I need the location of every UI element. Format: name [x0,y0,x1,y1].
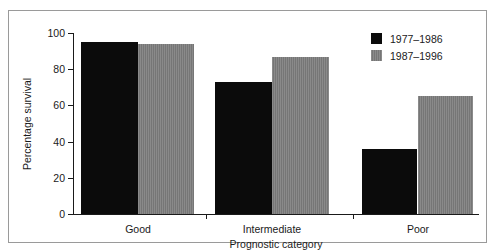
y-axis-tick-label: 100 [47,27,65,39]
y-axis-tick-label: 80 [53,63,65,75]
bar [81,42,138,214]
y-axis-tick [68,33,73,34]
y-axis-tick [68,178,73,179]
bar [138,44,194,214]
bar [272,57,329,214]
y-axis-tick [68,105,73,106]
bar [362,149,417,214]
legend-item: 1977–1986 [371,31,443,46]
legend-label: 1987–1996 [390,50,443,62]
x-axis-category-label: Poor [407,223,429,235]
figure: Percentage survival 020406080100 GoodInt… [0,0,500,252]
legend-label: 1977–1986 [390,33,443,45]
y-axis-tick [68,69,73,70]
x-axis-tick [206,214,207,219]
legend: 1977–19861987–1996 [371,31,443,65]
y-axis-title: Percentage survival [21,78,33,170]
x-axis-title: Prognostic category [230,238,323,250]
bar [418,96,473,214]
y-axis-tick [68,214,73,215]
y-axis-line [73,33,74,214]
y-axis-tick-label: 0 [59,208,65,220]
x-axis-category-label: Intermediate [243,223,301,235]
x-axis-category-label: Good [125,223,151,235]
legend-item: 1987–1996 [371,48,443,63]
bar [215,82,272,214]
y-axis-tick [68,142,73,143]
y-axis-tick-label: 40 [53,136,65,148]
y-axis-tick-label: 20 [53,172,65,184]
y-axis-tick-label: 60 [53,99,65,111]
legend-swatch-black [371,33,382,44]
figure-frame: Percentage survival 020406080100 GoodInt… [8,10,487,243]
x-axis-tick [353,214,354,219]
x-axis-line [73,214,479,215]
legend-swatch-gray [371,50,382,61]
